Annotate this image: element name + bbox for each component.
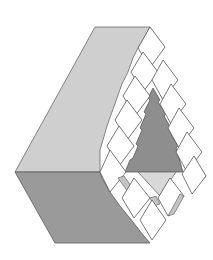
impossible-figure: [0, 0, 213, 260]
